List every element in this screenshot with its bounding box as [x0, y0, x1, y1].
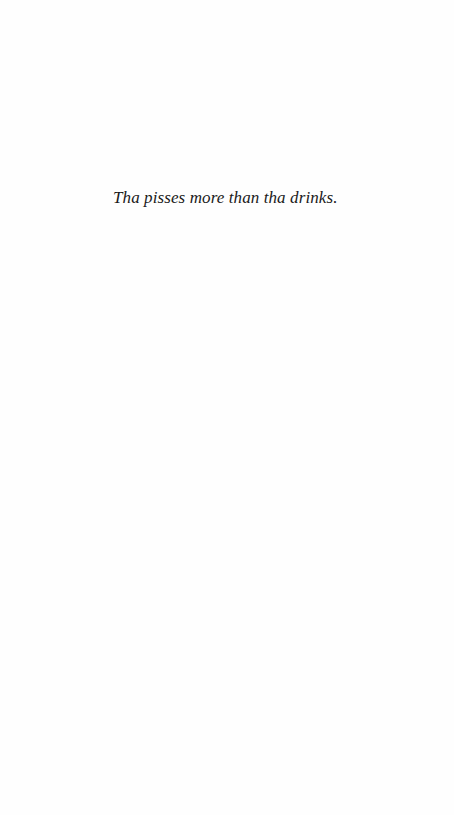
book-page: Tha pisses more than tha drinks. — [0, 0, 454, 815]
epigraph-text: Tha pisses more than tha drinks. — [113, 187, 338, 209]
